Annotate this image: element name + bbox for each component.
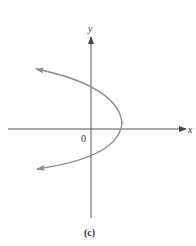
x-axis-label: x [187,124,193,135]
parabola-upper-branch [36,69,122,124]
y-axis-label: y [87,23,93,34]
figure-caption: (c) [84,227,95,239]
origin-label: 0 [81,133,86,144]
parabola-diagram: y x 0 (c) [0,0,196,246]
